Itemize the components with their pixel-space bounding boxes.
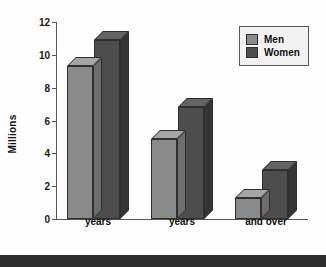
legend-label: Women [264, 47, 300, 58]
legend-label: Men [264, 34, 284, 45]
legend-swatch-icon [246, 47, 258, 58]
chart-legend: MenWomen [239, 26, 309, 66]
y-tick-label: 4 [44, 148, 50, 159]
bottom-band [0, 255, 326, 267]
y-axis-title: Millions [7, 114, 18, 153]
y-tick-label: 6 [44, 115, 50, 126]
bar-chart-figure: Millions 024681012 65–74 years75–84 year… [0, 0, 326, 267]
bar-men-2 [235, 198, 261, 219]
bar-front-face [235, 198, 261, 219]
bar-side-face [120, 31, 129, 219]
y-tick-mark [52, 121, 56, 122]
legend-swatch-icon [246, 34, 258, 45]
bar-front-face [67, 66, 93, 219]
y-tick-mark [52, 153, 56, 154]
y-tick-mark [52, 186, 56, 187]
legend-item-men[interactable]: Men [246, 34, 300, 45]
bar-side-face [204, 98, 213, 219]
y-tick-label: 8 [44, 82, 50, 93]
y-tick-label: 0 [44, 214, 50, 225]
y-tick-mark [52, 88, 56, 89]
y-tick-label: 10 [39, 49, 50, 60]
legend-item-women[interactable]: Women [246, 47, 300, 58]
bar-front-face [151, 139, 177, 219]
bar-side-face [177, 130, 186, 219]
y-tick-label: 2 [44, 181, 50, 192]
bar-men-1 [151, 139, 177, 219]
bar-side-face [288, 161, 297, 219]
bar-side-face [93, 57, 102, 219]
bar-men-0 [67, 66, 93, 219]
y-axis-line [56, 22, 57, 220]
y-tick-label: 12 [39, 17, 50, 28]
y-tick-mark [52, 22, 56, 23]
y-tick-mark [52, 55, 56, 56]
